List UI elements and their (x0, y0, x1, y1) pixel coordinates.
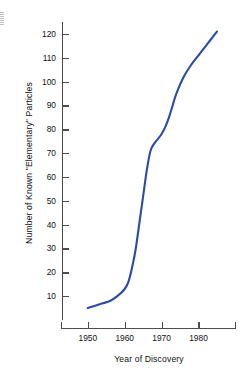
y-tick-label-20: 20 (47, 268, 56, 276)
chart-figure: Number of Known "Elementary" Particles 1… (0, 0, 249, 371)
x-tick-1980 (198, 322, 199, 329)
data-line-series (62, 22, 228, 320)
x-axis-endcap-left (61, 322, 62, 329)
x-tick-1950 (88, 322, 89, 329)
y-tick-label-110: 110 (43, 54, 56, 62)
x-tick-label-1960: 1960 (115, 334, 134, 342)
y-axis-title: Number of Known "Elementary" Particles (24, 38, 34, 288)
x-axis-title: Year of Discovery (62, 354, 236, 364)
x-tick-label-1980: 1980 (189, 334, 208, 342)
y-tick-label-30: 30 (47, 244, 56, 252)
series-path (88, 32, 217, 309)
y-tick-label-120: 120 (42, 30, 56, 38)
x-tick-1970 (162, 322, 163, 329)
y-tick-label-100: 100 (42, 77, 56, 85)
y-tick-label-70: 70 (47, 149, 56, 157)
y-tick-label-50: 50 (47, 197, 56, 205)
y-tick-label-90: 90 (47, 101, 56, 109)
plot-area: 102030405060708090100110120 195019601970… (62, 22, 228, 320)
y-tick-label-10: 10 (47, 292, 56, 300)
x-axis-endcap-right (235, 322, 236, 329)
y-tick-label-80: 80 (47, 125, 56, 133)
y-tick-label-60: 60 (47, 173, 56, 181)
y-tick-label-40: 40 (47, 220, 56, 228)
x-tick-label-1950: 1950 (78, 334, 97, 342)
edge-crop-artifact (0, 12, 4, 26)
x-tick-1960 (125, 322, 126, 329)
x-tick-label-1970: 1970 (152, 334, 171, 342)
